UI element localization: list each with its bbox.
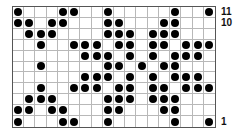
grid-cell xyxy=(58,105,69,116)
dot-icon xyxy=(59,8,67,16)
dot-icon xyxy=(48,95,56,103)
dot-icon xyxy=(59,19,67,27)
grid-cell xyxy=(80,62,91,73)
grid-cell xyxy=(92,83,103,94)
grid-cell xyxy=(47,18,58,29)
grid-cell xyxy=(13,83,24,94)
dot-icon xyxy=(115,95,123,103)
grid-cell xyxy=(35,116,46,127)
dot-icon xyxy=(160,30,168,38)
dot-icon xyxy=(14,8,22,16)
grid-cell xyxy=(204,7,215,18)
dot-icon xyxy=(182,52,190,60)
dot-icon xyxy=(182,73,190,81)
dot-icon xyxy=(104,118,112,126)
dot-icon xyxy=(115,30,123,38)
dot-icon xyxy=(70,84,78,92)
grid-cell xyxy=(103,105,114,116)
grid-cell xyxy=(125,29,136,40)
dot-icon xyxy=(104,62,112,70)
dot-icon xyxy=(48,30,56,38)
dot-icon xyxy=(25,19,33,27)
grid-cell xyxy=(13,18,24,29)
grid-cell xyxy=(136,18,147,29)
grid-cell xyxy=(47,116,58,127)
grid-cell xyxy=(13,94,24,105)
dot-icon xyxy=(160,62,168,70)
grid-cell xyxy=(80,18,91,29)
dot-icon xyxy=(171,62,179,70)
grid-cell xyxy=(114,72,125,83)
dot-icon xyxy=(126,41,134,49)
grid-cell xyxy=(170,40,181,51)
grid-cell xyxy=(58,7,69,18)
grid-cell xyxy=(114,40,125,51)
grid-cell xyxy=(125,18,136,29)
dot-icon xyxy=(205,118,213,126)
grid-cell xyxy=(58,29,69,40)
grid-cell xyxy=(103,18,114,29)
grid-cell xyxy=(125,83,136,94)
grid-cell xyxy=(148,72,159,83)
grid-cell xyxy=(136,51,147,62)
grid-cell xyxy=(24,62,35,73)
grid-cell xyxy=(170,29,181,40)
grid-cell xyxy=(148,29,159,40)
grid-cell xyxy=(80,51,91,62)
grid-cell xyxy=(159,51,170,62)
grid-cell xyxy=(181,72,192,83)
grid-cell xyxy=(148,83,159,94)
grid-cell xyxy=(148,116,159,127)
grid-cell xyxy=(58,62,69,73)
grid-cell xyxy=(47,29,58,40)
grid-cell xyxy=(159,83,170,94)
dot-icon xyxy=(126,84,134,92)
grid-cell xyxy=(159,29,170,40)
dot-icon xyxy=(48,106,56,114)
grid-cell xyxy=(58,18,69,29)
grid-cell xyxy=(103,40,114,51)
dot-icon xyxy=(70,41,78,49)
grid-cell xyxy=(114,18,125,29)
grid-cell xyxy=(136,83,147,94)
dot-icon xyxy=(182,84,190,92)
grid-cell xyxy=(193,94,204,105)
grid-cell xyxy=(92,51,103,62)
grid-cell xyxy=(13,62,24,73)
dot-icon xyxy=(126,52,134,60)
dot-icon xyxy=(93,84,101,92)
dot-icon xyxy=(93,41,101,49)
dot-icon xyxy=(37,41,45,49)
dot-icon xyxy=(171,30,179,38)
grid-cell xyxy=(181,116,192,127)
grid-cell xyxy=(204,51,215,62)
grid-cell xyxy=(69,62,80,73)
grid-cell xyxy=(159,116,170,127)
grid-cell xyxy=(13,40,24,51)
grid-cell xyxy=(69,51,80,62)
grid-cell xyxy=(58,40,69,51)
grid-cell xyxy=(193,51,204,62)
dot-icon xyxy=(149,30,157,38)
dot-icon xyxy=(160,106,168,114)
grid-cell xyxy=(103,72,114,83)
grid-cell xyxy=(170,62,181,73)
dot-icon xyxy=(81,73,89,81)
grid-cell xyxy=(69,72,80,83)
grid-cell xyxy=(13,72,24,83)
grid-cell xyxy=(148,18,159,29)
grid-cell xyxy=(181,18,192,29)
grid-cell xyxy=(35,51,46,62)
grid-cell xyxy=(103,116,114,127)
dot-icon xyxy=(171,52,179,60)
grid-cell xyxy=(204,83,215,94)
grid-cell xyxy=(181,62,192,73)
dot-icon xyxy=(160,84,168,92)
dot-icon xyxy=(138,62,146,70)
grid-cell xyxy=(125,51,136,62)
grid-cell xyxy=(103,51,114,62)
dot-icon xyxy=(126,73,134,81)
dot-icon xyxy=(104,30,112,38)
dot-icon xyxy=(104,19,112,27)
dot-icon xyxy=(126,30,134,38)
